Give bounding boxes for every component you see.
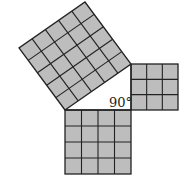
vertical-leg-square: [131, 64, 178, 110]
hypotenuse-square: [19, 2, 131, 110]
right-angle-label: 90°: [109, 95, 132, 110]
horizontal-leg-square: [65, 110, 131, 174]
pythagorean-diagram: 90°: [0, 0, 192, 186]
